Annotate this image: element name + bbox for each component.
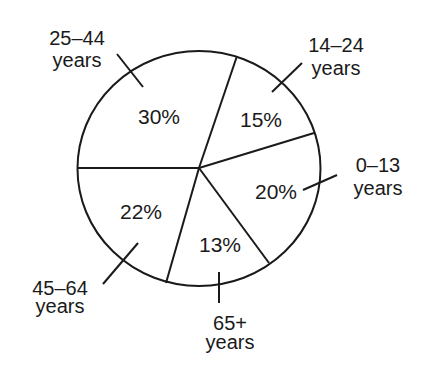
- leader-45-64: [103, 243, 138, 284]
- callout-25-44-line2: years: [53, 49, 102, 71]
- slice-pct-25-44: 30%: [138, 105, 180, 128]
- leader-25-44: [117, 54, 143, 87]
- callout-25-44-line1: 25–44: [49, 27, 105, 49]
- callout-25-44: 25–44 years: [49, 27, 105, 71]
- callout-0-13-line2: years: [354, 177, 403, 199]
- callout-65: 65+ years: [206, 312, 255, 353]
- slice-dividers: [77, 56, 314, 283]
- callout-14-24: 14–24 years: [308, 34, 364, 79]
- callout-0-13: 0–13 years: [354, 154, 403, 199]
- slice-pct-0-13: 20%: [255, 180, 297, 203]
- leader-lines: [103, 54, 337, 303]
- slice-pct-14-24: 15%: [240, 108, 282, 131]
- callout-14-24-line2: years: [312, 57, 361, 79]
- callout-14-24-line1: 14–24: [308, 34, 364, 56]
- slice-pct-45-64: 22%: [120, 200, 162, 223]
- callout-65-line2: years: [206, 331, 255, 353]
- divider-14-24-0-13: [199, 133, 314, 168]
- divider-65-45-64: [166, 168, 199, 283]
- pie-chart: 30% 15% 20% 22% 13% 25–44 years 14–24 ye…: [0, 0, 424, 377]
- callout-0-13-line1: 0–13: [356, 154, 401, 176]
- callout-45-64-line2: years: [36, 295, 85, 317]
- callout-45-64: 45–64 years: [32, 277, 88, 317]
- slice-pct-65: 13%: [199, 233, 241, 256]
- divider-25-44-14-24: [199, 56, 237, 168]
